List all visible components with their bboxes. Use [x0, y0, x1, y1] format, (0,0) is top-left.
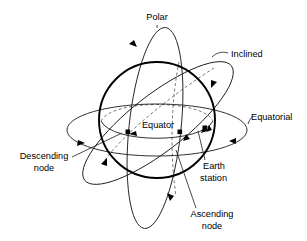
labels-group: Polar Inclined Equatorial Equator Descen… — [20, 12, 293, 231]
equator-back-arc — [101, 105, 213, 122]
inclined-orbit-arrow-upper — [211, 80, 217, 88]
descending-node-label-line2: node — [34, 163, 54, 173]
descending-node-marker — [126, 130, 131, 135]
polar-orbit-arrow-top — [129, 40, 137, 47]
inclined-orbit-arrow-lower — [101, 158, 107, 166]
orbit-diagram-figure: Polar Inclined Equatorial Equator Descen… — [0, 0, 307, 241]
equatorial-label: Equatorial — [251, 112, 292, 122]
inclined-label-leader — [212, 52, 228, 57]
ascending-node-label-line2: node — [202, 221, 222, 231]
polar-label: Polar — [146, 12, 167, 22]
equator-label: Equator — [142, 120, 174, 130]
orbit-diagram-svg: Polar Inclined Equatorial Equator Descen… — [0, 0, 307, 241]
earth-station-label-line2: station — [200, 173, 227, 183]
polar-orbit-arrow-bottom — [167, 193, 174, 201]
inclined-label: Inclined — [231, 49, 263, 59]
ascending-node-marker — [178, 130, 183, 135]
ascending-node-leader — [176, 150, 196, 208]
inclined-orbit-back-arc — [105, 68, 214, 160]
earth-station-label-line1: Earth — [203, 161, 225, 171]
equatorial-orbit-arrow-right — [229, 138, 236, 144]
earth-station-leader — [198, 131, 205, 160]
ascending-node-label-line1: Ascending — [191, 209, 234, 219]
descending-node-label-line1: Descending — [20, 151, 69, 161]
